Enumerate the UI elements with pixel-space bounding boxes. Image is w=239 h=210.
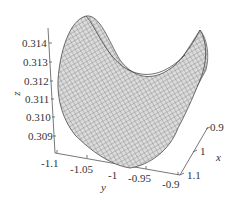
y-axis-title: y [101,182,106,193]
y-tick-label: -1.1 [41,158,58,169]
x-tick-label: 1.1 [187,170,201,181]
x-tick-label: 1 [200,146,206,157]
x-axis-title: x [216,152,221,163]
z-tick-label: 0.311 [25,94,49,105]
surface-main [58,16,206,168]
x-tick-label: 0.9 [210,122,224,133]
surface-plot [0,0,239,210]
z-tick-label: 0.309 [28,131,53,142]
z-tick-label: 0.313 [23,57,48,68]
z-tick-label: 0.312 [24,76,49,87]
z-tick-label: 0.310 [26,112,51,123]
z-axis-title: z [11,91,22,95]
z-tick-label: 0.314 [22,38,47,49]
y-tick-label: -0.95 [128,173,151,184]
y-tick-label: -1.05 [70,164,93,175]
y-tick-label: -1 [108,170,117,181]
y-tick-label: -0.9 [162,179,179,190]
